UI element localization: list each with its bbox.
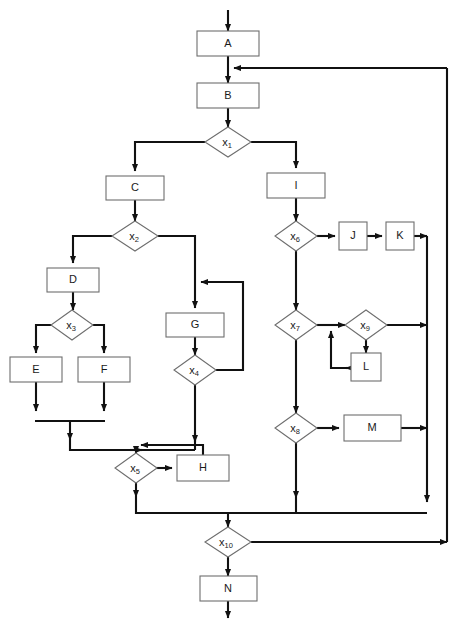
node-F-label: F [101, 363, 108, 375]
node-H-label: H [199, 461, 207, 473]
edge-merge-to-x5-feeder [70, 440, 136, 450]
node-x7[interactable]: x7 [275, 310, 317, 340]
edge-x3-to-E [36, 325, 52, 353]
node-A-label: A [224, 37, 232, 49]
node-B-label: B [224, 89, 231, 101]
node-I-label: I [294, 179, 297, 191]
edge-x2-to-G [158, 236, 195, 308]
node-K[interactable]: K [386, 222, 414, 250]
node-C-label: C [131, 181, 139, 193]
node-E[interactable]: E [10, 357, 62, 382]
flowchart-svg: A B C D E [0, 0, 459, 625]
node-D[interactable]: D [47, 268, 99, 292]
node-x9[interactable]: x9 [345, 310, 387, 340]
edge-x2-to-D [73, 236, 112, 263]
node-J[interactable]: J [339, 222, 367, 250]
node-G[interactable]: G [166, 313, 224, 337]
node-M[interactable]: M [344, 415, 401, 441]
node-N[interactable]: N [200, 576, 257, 601]
node-J-label: J [350, 229, 356, 241]
edge-x1-to-C [135, 142, 205, 171]
node-x1[interactable]: x1 [205, 127, 251, 157]
flowchart-canvas: A B C D E [0, 0, 459, 625]
node-x10[interactable]: x10 [205, 527, 251, 557]
node-x5[interactable]: x5 [115, 453, 157, 483]
node-G-label: G [191, 318, 200, 330]
edge-x3-to-F [93, 325, 104, 353]
node-x8[interactable]: x8 [275, 413, 317, 443]
node-M-label: M [367, 421, 376, 433]
node-K-label: K [396, 229, 404, 241]
node-H[interactable]: H [177, 455, 229, 481]
node-x2[interactable]: x2 [112, 221, 158, 251]
node-D-label: D [69, 273, 77, 285]
node-I[interactable]: I [267, 173, 325, 198]
node-N-label: N [224, 582, 232, 594]
edge-x1-to-I [251, 142, 296, 168]
node-F[interactable]: F [78, 357, 130, 382]
node-B[interactable]: B [197, 83, 259, 108]
node-C[interactable]: C [106, 176, 164, 200]
node-L-label: L [363, 360, 369, 372]
node-layer: A B C D E [10, 31, 414, 601]
node-x4[interactable]: x4 [174, 355, 216, 385]
node-A[interactable]: A [197, 31, 259, 56]
node-x6[interactable]: x6 [275, 221, 317, 251]
edge-x5-to-bottom-bus [136, 497, 228, 513]
edge-L-loop-to-x9 [331, 331, 352, 368]
node-L[interactable]: L [351, 353, 381, 381]
node-E-label: E [32, 363, 39, 375]
node-x3[interactable]: x3 [51, 310, 93, 340]
